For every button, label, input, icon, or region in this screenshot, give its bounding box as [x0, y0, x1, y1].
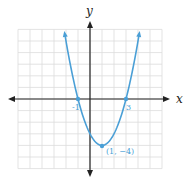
- x-axis-right-arrow-icon: [163, 96, 170, 102]
- y-axis-down-arrow-icon: [87, 170, 93, 177]
- x-intercept-left-point: [76, 97, 80, 101]
- curve-left-arrow-icon: [63, 31, 68, 37]
- x-axis-label: x: [176, 92, 183, 106]
- vertex-point: [100, 144, 104, 148]
- y-axis-up-arrow-icon: [87, 21, 93, 28]
- parabola-chart: x y -1 3 (1, −4): [0, 0, 184, 184]
- x-intercept-left-label: -1: [72, 103, 80, 112]
- x-intercept-right-label: 3: [126, 103, 131, 112]
- x-axis: [8, 96, 170, 102]
- vertex-label: (1, −4): [106, 147, 134, 156]
- x-intercept-right-point: [124, 97, 128, 101]
- y-axis-label: y: [85, 4, 93, 18]
- x-axis-left-arrow-icon: [8, 96, 15, 102]
- curve-right-arrow-icon: [136, 31, 141, 37]
